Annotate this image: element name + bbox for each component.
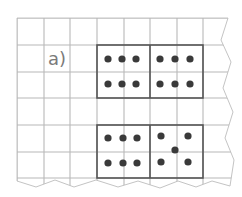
grid-paper: a) — [0, 0, 242, 197]
exercise-label: a) — [48, 48, 66, 69]
